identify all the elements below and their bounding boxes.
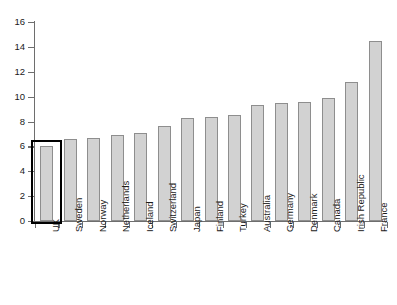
x-axis-label-switzerland: Switzerland: [168, 183, 178, 232]
x-axis-label-germany: Germany: [285, 193, 295, 232]
bar-france: [369, 41, 382, 221]
x-axis-label-canada: Canada: [332, 199, 342, 232]
x-axis-label-finland: Finland: [215, 201, 225, 232]
x-axis-label-irish-republic: Irish Republic: [356, 174, 366, 232]
x-axis-label-australia: Australia: [262, 195, 272, 232]
x-axis-label-france: France: [379, 202, 389, 232]
x-axis-label-netherlands: Netherlands: [121, 181, 131, 232]
highlight-box-uk: [31, 140, 62, 224]
x-axis-label-japan: Japan: [192, 206, 202, 232]
x-axis-label-turkey: Turkey: [238, 203, 248, 232]
x-axis-label-sweden: Sweden: [74, 198, 84, 232]
x-axis-label-iceland: Iceland: [145, 201, 155, 232]
bar-chart: 0246810121416 UKSwedenNorwayNetherlandsI…: [0, 0, 397, 305]
x-axis-label-norway: Norway: [98, 200, 108, 232]
x-axis-label-denmark: Denmark: [309, 193, 319, 232]
